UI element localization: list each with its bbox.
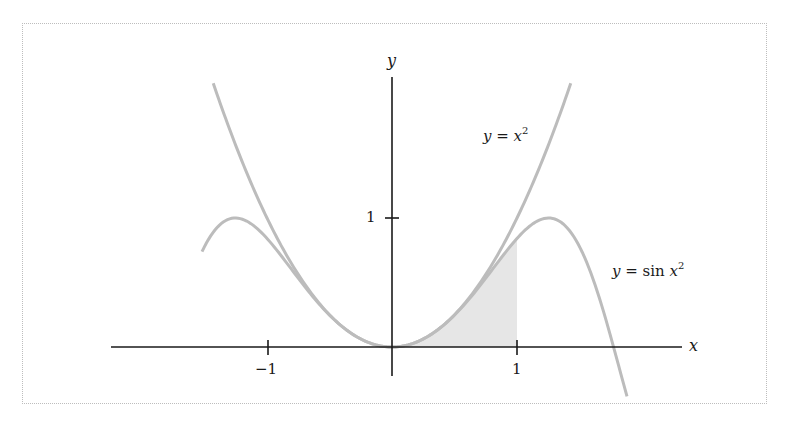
curve2-eq: = sin [620, 262, 669, 280]
curve-label-sin-x-squared: y = sin x2 [612, 261, 684, 279]
x-axis-label: x [689, 338, 698, 354]
curve1-exponent: 2 [522, 125, 528, 136]
curve-label-x-squared: y = x2 [483, 126, 528, 144]
y-tick-label-1: 1 [366, 210, 376, 225]
curve2-exponent: 2 [678, 260, 684, 271]
y-axis-label: y [387, 53, 396, 69]
x-tick-label-1: 1 [512, 362, 522, 377]
curve2-rhs: x [670, 262, 678, 280]
curve1-rhs: x [514, 127, 522, 145]
x-tick-label-neg1: −1 [255, 362, 277, 377]
curve1-eq: = [491, 127, 513, 145]
